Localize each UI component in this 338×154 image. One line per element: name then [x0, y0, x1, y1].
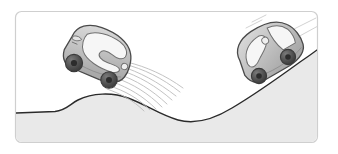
illustration-container: Car going down the hill Car going up the…	[0, 0, 338, 154]
front-wheel-hub-right	[285, 54, 291, 60]
rear-wheel-hub-left	[106, 77, 112, 83]
rear-wheel-hub-right	[256, 73, 262, 79]
front-wheel-hub-left	[71, 60, 77, 66]
cars-on-hills-figure	[0, 0, 338, 154]
